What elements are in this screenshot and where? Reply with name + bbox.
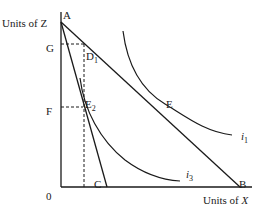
point-e2-label: E2 xyxy=(85,98,96,113)
point-a-label: A xyxy=(63,9,71,21)
point-e-label: E xyxy=(166,98,173,110)
point-d1-label: D1 xyxy=(86,50,98,65)
indifference-curve-i1 xyxy=(123,31,232,135)
curve-i1-label: i1 xyxy=(241,130,248,145)
curve-i3-label: i3 xyxy=(186,168,193,183)
point-b-label: B xyxy=(239,178,246,190)
indifference-curve-i3 xyxy=(80,78,180,181)
diagram-svg: Units of Z A G F 0 D1 E2 E C B i1 i3 Uni… xyxy=(0,0,261,215)
point-g-label: G xyxy=(46,42,54,54)
indifference-curve-diagram: Units of Z A G F 0 D1 E2 E C B i1 i3 Uni… xyxy=(0,0,261,215)
point-f-label: F xyxy=(46,105,52,117)
x-axis-label: Units of X xyxy=(203,194,250,206)
y-axis-label: Units of Z xyxy=(2,17,48,29)
point-c-label: C xyxy=(94,178,101,190)
origin-label: 0 xyxy=(46,190,52,202)
